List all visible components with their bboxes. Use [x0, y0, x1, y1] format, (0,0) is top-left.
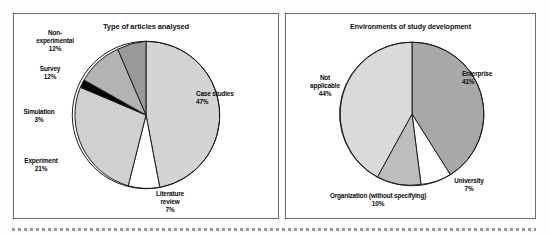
pie-label-university: University 7%: [438, 177, 500, 193]
scan-edge-artifact: [12, 228, 536, 231]
pie-label-non-experimental: Non- experimental 12%: [22, 29, 88, 54]
pie-label-organization: Organization (without specifying) 10%: [312, 192, 444, 208]
pie-chart-type-of-articles: [70, 39, 222, 191]
pie-label-experiment: Experiment 21%: [8, 157, 74, 173]
figure-two-pie-charts: Type of articles analysed Non- experimen…: [0, 0, 550, 235]
pie-label-literature-review: Literature review 7%: [138, 190, 202, 215]
pie-label-survey: Survey 12%: [20, 65, 80, 81]
pie-chart-environments: [338, 40, 486, 188]
pie-label-case-studies: Case studies 47%: [196, 90, 266, 106]
pie-label-not-applicable: Not applicable 44%: [294, 74, 356, 99]
pie-slice-case-studies: [146, 41, 220, 187]
pie-label-enterprise: Enterprise 41%: [462, 70, 528, 86]
pie-label-simulation: Simulation 3%: [5, 108, 73, 124]
page-title-right: Environments of study development: [286, 22, 535, 31]
